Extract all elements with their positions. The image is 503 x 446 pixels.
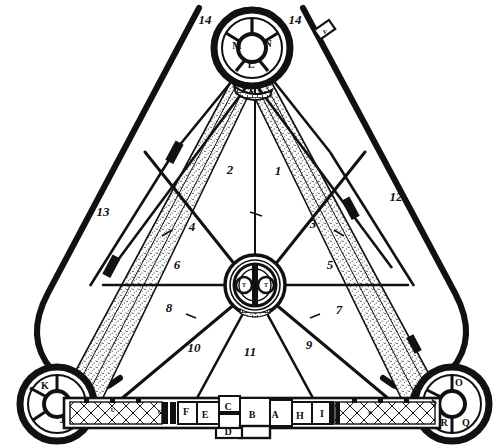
bastion-label-q: Q [462,418,470,428]
sector-label-1: 1 [275,164,282,177]
sector-label-7: 7 [336,303,343,316]
curtain-label-u: U [111,407,115,413]
outwork-label-v: V [323,29,327,35]
room-label-d: D [224,427,231,437]
room-label-a: A [271,410,278,420]
rotunda-label-t-right: T [264,282,268,288]
sector-label-14-right: 14 [289,13,302,26]
sector-label-5: 5 [327,258,334,271]
rotunda-label-t-left: T [242,282,246,288]
room-label-b: B [249,410,256,420]
bastion-label-s: S [431,397,437,407]
sector-label-2: 2 [227,163,234,176]
sector-label-10: 10 [188,341,201,354]
sector-label-12: 12 [390,190,403,203]
sector-label-8: 8 [166,301,173,314]
room-label-i: I [320,409,324,419]
curtain-label-p: P [368,410,372,416]
bastion-label-l: L [248,60,255,70]
sector-label-3: 3 [310,217,317,230]
bastion-label-m: M [232,41,241,51]
sector-label-11: 11 [244,345,256,358]
sector-label-9: 9 [306,338,313,351]
sector-label-4: 4 [189,220,196,233]
bastion-label-r: R [440,418,447,428]
sector-label-6: 6 [174,258,181,271]
room-label-f: F [183,407,189,417]
sector-label-14-left: 14 [199,13,212,26]
bastion-label-o: O [455,378,463,388]
sector-label-13: 13 [97,205,110,218]
room-label-e: E [202,410,209,420]
central-rotunda-structure [225,255,285,317]
bastion-label-j: J [60,415,65,425]
room-label-c: C [224,402,231,412]
curtain-label-g: G [158,409,163,415]
fortification-plan: 1 2 3 4 5 6 7 8 9 10 11 12 13 14 14 M N … [0,0,503,446]
bastion-label-n: N [264,39,271,49]
room-label-h: H [296,411,304,421]
bastion-label-k: K [41,381,49,391]
